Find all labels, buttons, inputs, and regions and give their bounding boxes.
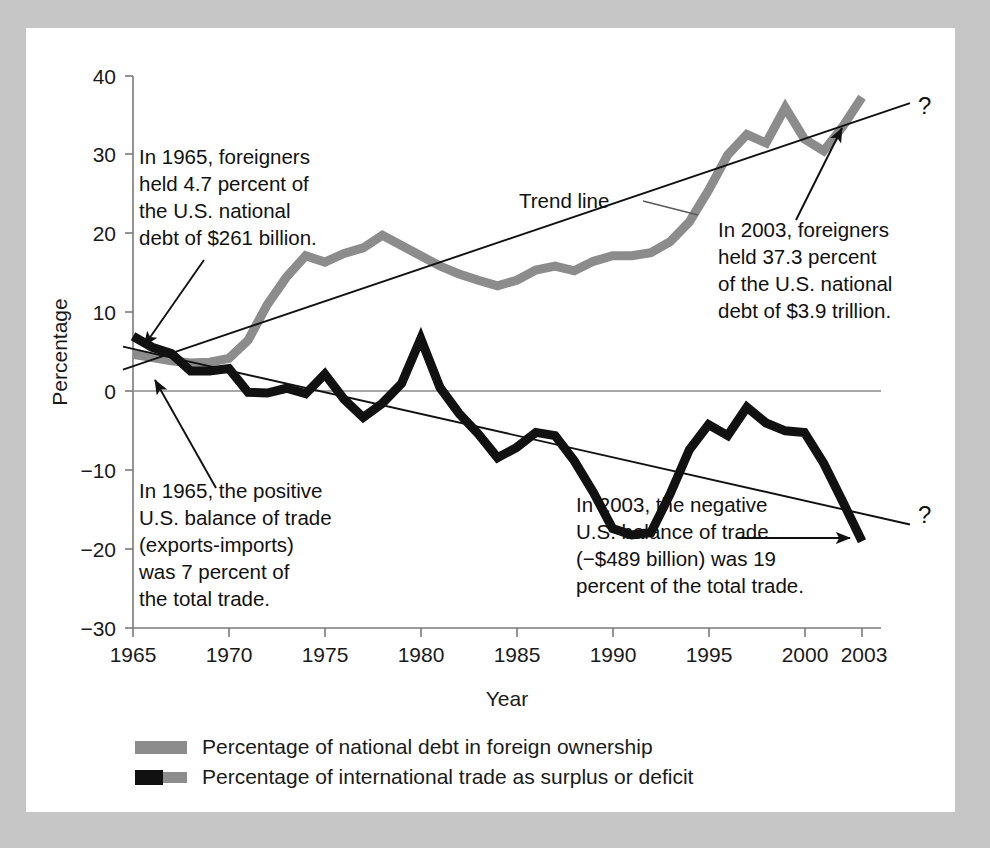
chart-canvas: 40 30 20 10 0 −10 −20 −30 1965 1970 1975… — [26, 28, 955, 812]
y-label-40: 40 — [93, 65, 116, 88]
annotation-bottom-left-line-3: (exports-imports) — [139, 533, 294, 556]
x-label-1990: 1990 — [590, 643, 637, 666]
question-mark-upper: ? — [918, 92, 931, 119]
trend-line-label: Trend line — [519, 189, 609, 212]
annotation-top-right-line-1: In 2003, foreigners — [718, 218, 889, 241]
legend: Percentage of national debt in foreign o… — [135, 735, 694, 788]
annotation-top-left-line-4: debt of $261 billion. — [139, 226, 317, 249]
annotation-bottom-right-line-4: percent of the total trade. — [576, 574, 804, 597]
legend-swatch-trade-black — [135, 770, 163, 785]
x-label-2003: 2003 — [841, 643, 888, 666]
arrow-1965-debt — [144, 260, 204, 346]
annotation-top-right: In 2003, foreigners held 37.3 percent of… — [718, 218, 892, 322]
x-label-2000: 2000 — [782, 643, 829, 666]
y-axis-title: Percentage — [48, 298, 71, 405]
y-label-20: 20 — [93, 222, 116, 245]
x-label-1985: 1985 — [494, 643, 541, 666]
x-axis-title: Year — [486, 687, 528, 710]
annotation-bottom-left: In 1965, the positive U.S. balance of tr… — [138, 479, 332, 610]
y-tick-labels: 40 30 20 10 0 −10 −20 −30 — [80, 65, 116, 640]
y-label-0: 0 — [104, 380, 116, 403]
legend-swatch-trade-gray — [163, 772, 187, 783]
annotation-bottom-left-line-5: the total trade. — [139, 587, 270, 610]
question-mark-lower: ? — [918, 501, 931, 528]
y-label-10: 10 — [93, 301, 116, 324]
annotation-bottom-left-line-1: In 1965, the positive — [139, 479, 323, 502]
annotation-top-left: In 1965, foreigners held 4.7 percent of … — [139, 145, 317, 249]
x-label-1965: 1965 — [110, 643, 157, 666]
annotation-bottom-left-line-2: U.S. balance of trade — [139, 506, 332, 529]
annotation-top-right-line-3: of the U.S. national — [718, 272, 892, 295]
x-tick-labels: 1965 1970 1975 1980 1985 1990 1995 2000 … — [110, 643, 888, 666]
annotation-top-left-line-1: In 1965, foreigners — [139, 145, 310, 168]
x-label-1995: 1995 — [686, 643, 733, 666]
y-label-neg20: −20 — [80, 538, 116, 561]
annotation-bottom-right-line-1: In 2003, the negative — [576, 493, 768, 516]
annotation-top-right-line-4: debt of $3.9 trillion. — [718, 299, 891, 322]
y-label-neg30: −30 — [80, 617, 116, 640]
annotation-bottom-left-line-4: was 7 percent of — [138, 560, 290, 583]
arrow-1965-trade — [155, 380, 216, 488]
annotation-bottom-right: In 2003, the negative U.S. balance of tr… — [576, 493, 804, 597]
legend-swatch-national-debt — [135, 741, 187, 754]
legend-label-trade: Percentage of international trade as sur… — [202, 765, 694, 788]
legend-label-national-debt: Percentage of national debt in foreign o… — [202, 735, 653, 758]
x-label-1980: 1980 — [398, 643, 445, 666]
annotation-bottom-right-line-2: U.S. balance of trade — [576, 520, 769, 543]
annotation-bottom-right-line-3: (−$489 billion) was 19 — [576, 547, 776, 570]
annotation-top-right-line-2: held 37.3 percent — [718, 245, 877, 268]
annotation-top-left-line-3: the U.S. national — [139, 199, 291, 222]
annotation-top-left-line-2: held 4.7 percent of — [139, 172, 309, 195]
trend-label-leader — [643, 201, 698, 215]
y-label-30: 30 — [93, 143, 116, 166]
x-label-1970: 1970 — [206, 643, 253, 666]
figure-panel: 40 30 20 10 0 −10 −20 −30 1965 1970 1975… — [26, 28, 955, 812]
x-label-1975: 1975 — [302, 643, 349, 666]
y-label-neg10: −10 — [80, 459, 116, 482]
